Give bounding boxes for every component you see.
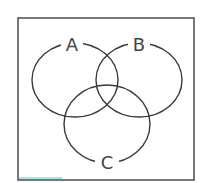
venn-diagram: A B C (0, 0, 205, 183)
set-a-label: A (66, 34, 79, 55)
set-b-label: B (133, 34, 145, 55)
set-c-label: C (101, 152, 114, 173)
